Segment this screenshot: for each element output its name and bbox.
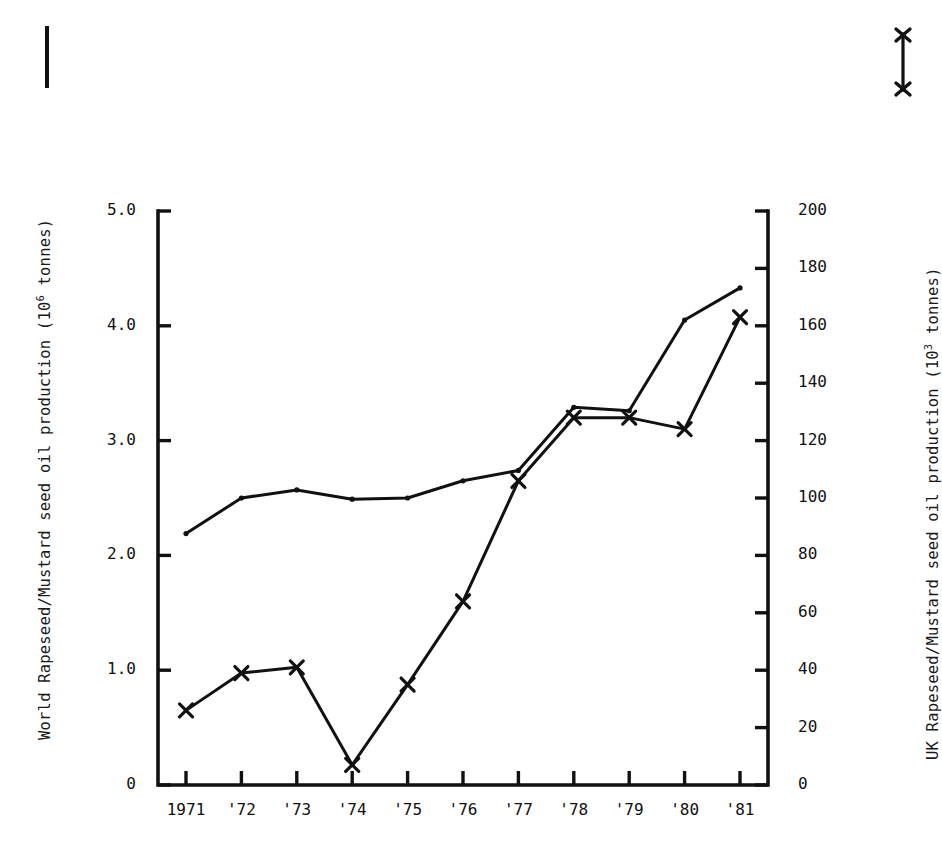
world-data-point [627, 408, 632, 413]
world-polyline [186, 288, 740, 534]
world-data-point [571, 405, 576, 410]
series-world-line [183, 285, 742, 536]
series-uk-line [180, 311, 747, 772]
world-data-point [737, 285, 742, 290]
x-axis-ticks [186, 771, 740, 785]
world-data-point [239, 495, 244, 500]
world-data-point [516, 468, 521, 473]
world-data-point [460, 478, 465, 483]
uk-polyline [186, 317, 740, 765]
world-data-point [350, 497, 355, 502]
world-data-point [294, 487, 299, 492]
uk-data-point [457, 595, 470, 608]
world-data-point [405, 495, 410, 500]
left-axis-ticks [158, 211, 171, 785]
world-data-point [183, 531, 188, 536]
uk-data-point [734, 311, 747, 324]
uk-data-point [512, 474, 525, 487]
uk-data-point [180, 704, 193, 717]
uk-data-point [401, 678, 414, 691]
world-data-point [682, 317, 687, 322]
uk-data-point [346, 758, 359, 771]
right-axis-ticks [755, 211, 768, 785]
